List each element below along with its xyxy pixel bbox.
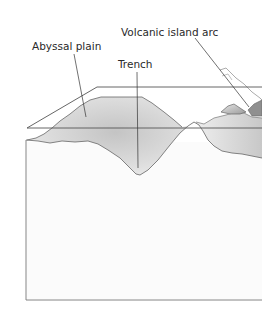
leader-volcanic-arc <box>195 38 249 107</box>
label-trench: Trench <box>118 59 153 70</box>
volcanic-island <box>220 68 262 116</box>
label-volcanic-island-arc: Volcanic island arc <box>121 27 218 38</box>
label-abyssal-plain: Abyssal plain <box>32 41 101 52</box>
